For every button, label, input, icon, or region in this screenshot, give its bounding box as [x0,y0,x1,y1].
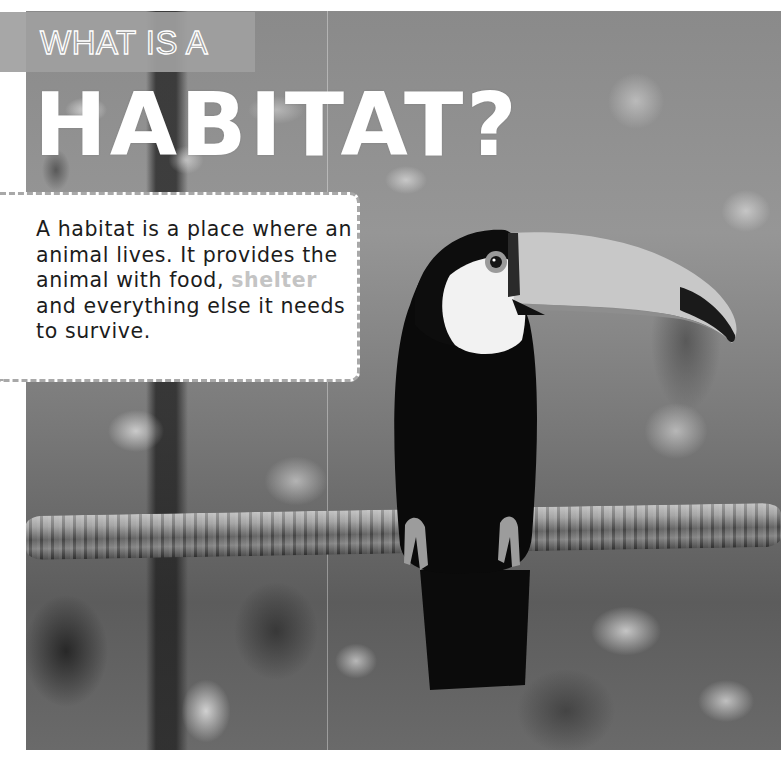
page-title: HABITAT? [34,82,520,169]
definition-text-after: and everything else it needs to survive. [36,294,345,344]
definition-box: A habitat is a place where an animal liv… [0,192,360,382]
header-kicker: WHAT IS A [40,24,208,62]
glossary-term-shelter: shelter [231,268,317,292]
page: WHAT IS A HABITAT? A habitat is a place … [0,0,781,759]
toucan-icon [380,215,760,695]
definition-text: A habitat is a place where an animal liv… [36,217,356,345]
